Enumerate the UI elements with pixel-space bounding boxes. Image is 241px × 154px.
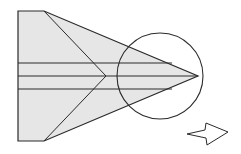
diagram-canvas (0, 0, 241, 154)
origami-diagram (0, 0, 241, 154)
right-arrow-icon (187, 123, 228, 145)
